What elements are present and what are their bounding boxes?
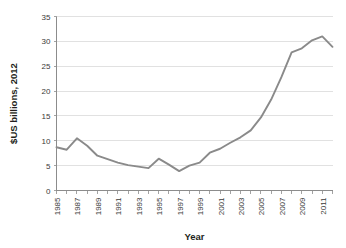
chart-canvas: 05101520253035 1985198719891991199319951… [0,0,346,248]
x-axis-ticks-group: 1985198719891991199319951997199920012003… [53,191,333,216]
y-axis-title: $US billions, 2012 [8,63,19,144]
data-series-line [57,36,333,171]
y-tick-label: 20 [42,87,51,96]
x-tick-label: 1995 [155,197,164,215]
y-tick-label: 25 [42,62,51,71]
y-tick-label: 5 [46,162,51,171]
y-tick-label: 35 [42,13,51,22]
x-axis-title: Year [184,231,204,242]
x-tick-label: 2009 [298,197,307,215]
y-axis-ticks-group: 05101520253035 [42,13,57,196]
x-tick-label: 2007 [278,197,287,215]
x-tick-label: 2011 [319,197,328,215]
x-tick-label: 2003 [237,197,246,215]
x-tick-label: 1985 [53,197,62,215]
x-tick-label: 2005 [257,197,266,215]
y-tick-label: 30 [42,37,51,46]
x-tick-label: 1997 [176,197,185,215]
x-tick-label: 1999 [196,197,205,215]
y-tick-label: 10 [42,137,51,146]
line-chart-figure: 05101520253035 1985198719891991199319951… [0,0,346,248]
x-tick-label: 1993 [135,197,144,215]
gridlines-group [57,17,333,166]
y-tick-label: 15 [42,112,51,121]
x-tick-label: 2001 [217,197,226,215]
x-tick-label: 1987 [73,197,82,215]
y-tick-label: 0 [46,187,51,196]
x-tick-label: 1989 [94,197,103,215]
x-tick-label: 1991 [114,197,123,215]
